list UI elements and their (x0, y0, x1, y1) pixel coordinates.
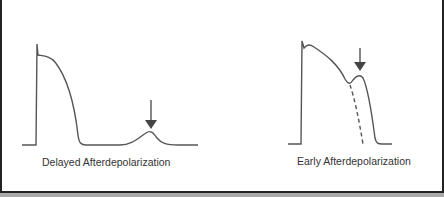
early-afterdepolarization-panel (288, 41, 392, 144)
early-action-potential-trace (288, 41, 392, 144)
delayed-afterdepolarization-panel (22, 44, 198, 145)
early-afterdepolarization-caption: Early Afterdepolarization (297, 155, 411, 167)
normal-repolarization-dashed-trace (350, 85, 363, 144)
arrow-down-icon (145, 100, 157, 129)
delayed-afterdepolarization-caption: Delayed Afterdepolarization (42, 156, 170, 168)
arrow-down-icon (354, 48, 366, 71)
delayed-action-potential-trace (22, 44, 198, 145)
